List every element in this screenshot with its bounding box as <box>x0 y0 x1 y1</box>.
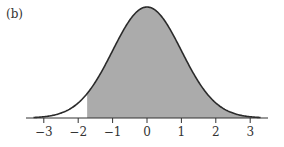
x-tick-label: 0 <box>143 125 151 139</box>
normal-curve-chart: −3−2−10123 <box>0 0 284 147</box>
x-axis-ticks: −3−2−10123 <box>35 118 254 139</box>
x-tick-label: 3 <box>246 125 254 139</box>
x-tick-label: 2 <box>212 125 220 139</box>
x-tick-label: −2 <box>69 125 87 139</box>
x-tick-label: −3 <box>35 125 53 139</box>
x-tick-label: −1 <box>104 125 122 139</box>
shaded-area <box>87 7 260 118</box>
x-tick-label: 1 <box>178 125 186 139</box>
